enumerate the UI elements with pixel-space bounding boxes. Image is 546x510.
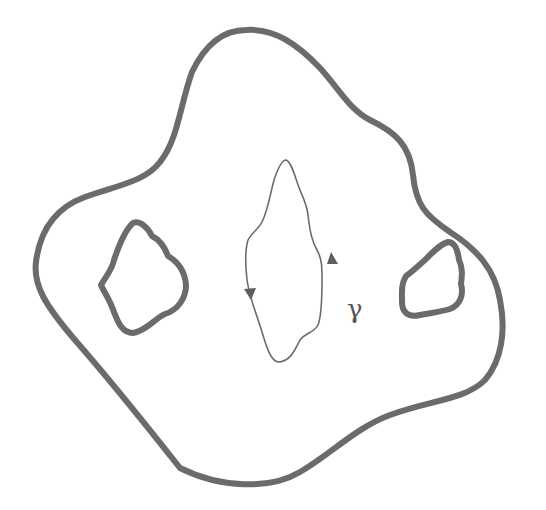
gamma-label: γ bbox=[347, 294, 363, 324]
left-hole bbox=[101, 222, 186, 333]
gamma-curve bbox=[246, 160, 322, 362]
outer-boundary-curve bbox=[36, 30, 503, 484]
arrow-up-right-icon bbox=[327, 252, 338, 264]
right-hole bbox=[402, 242, 462, 316]
arrow-down-left-icon bbox=[244, 288, 256, 300]
domain-diagram: γ bbox=[0, 0, 546, 510]
